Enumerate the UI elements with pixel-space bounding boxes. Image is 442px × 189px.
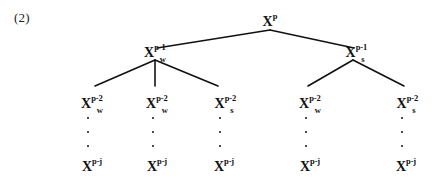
vertical-ellipsis bbox=[401, 117, 403, 147]
ellipsis-dot bbox=[305, 131, 307, 133]
node-base: X bbox=[215, 96, 225, 111]
ellipsis-dot bbox=[305, 117, 307, 119]
node-superscript: p-2 bbox=[156, 93, 168, 103]
ellipsis-dot bbox=[152, 131, 154, 133]
node-superscript: p-j bbox=[157, 156, 167, 166]
node-base: X bbox=[81, 96, 91, 111]
node-base: X bbox=[263, 14, 273, 29]
node-subscript: s bbox=[230, 105, 233, 115]
node-base: X bbox=[346, 45, 356, 60]
tree-edge bbox=[308, 60, 353, 86]
tree-node-leaf-4: Xp-j bbox=[396, 158, 416, 174]
ellipsis-dot bbox=[87, 117, 89, 119]
tree-node-leaf-3: Xp-j bbox=[300, 158, 320, 174]
ellipsis-dot bbox=[401, 131, 403, 133]
node-base: X bbox=[214, 159, 224, 174]
vertical-ellipsis bbox=[152, 117, 154, 147]
tree-node-leaf-0: Xp-j bbox=[82, 158, 102, 174]
node-superscript: p-1 bbox=[154, 42, 166, 52]
node-subscript: s bbox=[361, 54, 364, 64]
node-subscript: w bbox=[160, 54, 166, 64]
node-superscript: p-2 bbox=[91, 93, 103, 103]
vertical-ellipsis bbox=[219, 117, 221, 147]
ellipsis-dot bbox=[219, 117, 221, 119]
node-superscript: p bbox=[273, 11, 278, 21]
vertical-ellipsis bbox=[87, 117, 89, 147]
tree-node-level3-1: Xp-2w bbox=[146, 95, 168, 113]
tree-node-level3-2: Xp-2s bbox=[215, 95, 234, 113]
node-superscript: p-1 bbox=[356, 42, 368, 52]
tree-node-leaf-2: Xp-j bbox=[214, 158, 234, 174]
node-base: X bbox=[147, 159, 157, 174]
tree-node-level3-4: Xp-2s bbox=[397, 95, 416, 113]
node-base: X bbox=[144, 45, 154, 60]
node-superscript: p-2 bbox=[225, 93, 237, 103]
node-subscript: w bbox=[315, 105, 321, 115]
ellipsis-dot bbox=[87, 145, 89, 147]
node-superscript: p-2 bbox=[407, 93, 419, 103]
node-base: X bbox=[300, 159, 310, 174]
figure-canvas: (2) XpXp-1wXp-1sXp-2wXp-2wXp-2sXp-2wXp-2… bbox=[0, 0, 442, 189]
node-base: X bbox=[397, 96, 407, 111]
tree-node-root: Xp bbox=[263, 13, 278, 29]
tree-edge bbox=[157, 30, 270, 48]
tree-node-level2-1: Xp-1s bbox=[346, 44, 365, 62]
node-base: X bbox=[82, 159, 92, 174]
node-subscript: w bbox=[97, 105, 103, 115]
tree-edge bbox=[270, 30, 354, 48]
ellipsis-dot bbox=[401, 145, 403, 147]
ellipsis-dot bbox=[401, 117, 403, 119]
tree-node-leaf-1: Xp-j bbox=[147, 158, 167, 174]
tree-node-level3-3: Xp-2w bbox=[299, 95, 321, 113]
node-subscript: w bbox=[162, 105, 168, 115]
node-superscript: p-j bbox=[406, 156, 416, 166]
ellipsis-dot bbox=[87, 131, 89, 133]
vertical-ellipsis bbox=[305, 117, 307, 147]
ellipsis-dot bbox=[305, 145, 307, 147]
node-subscript: s bbox=[412, 105, 415, 115]
ellipsis-dot bbox=[219, 145, 221, 147]
node-superscript: p-j bbox=[224, 156, 234, 166]
ellipsis-dot bbox=[152, 145, 154, 147]
ellipsis-dot bbox=[219, 131, 221, 133]
tree-edge bbox=[95, 60, 155, 86]
node-superscript: p-2 bbox=[309, 93, 321, 103]
node-superscript: p-j bbox=[92, 156, 102, 166]
tree-node-level3-0: Xp-2w bbox=[81, 95, 103, 113]
node-base: X bbox=[299, 96, 309, 111]
tree-node-level2-0: Xp-1w bbox=[144, 44, 166, 62]
node-base: X bbox=[396, 159, 406, 174]
node-base: X bbox=[146, 96, 156, 111]
ellipsis-dot bbox=[152, 117, 154, 119]
node-superscript: p-j bbox=[310, 156, 320, 166]
